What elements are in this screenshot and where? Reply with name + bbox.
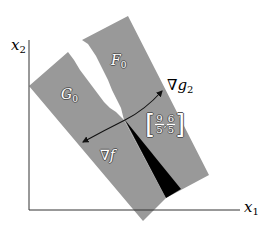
region-g0-label: G0	[61, 87, 78, 104]
grad-f-label: ∇f	[100, 148, 115, 162]
point-label: [95,65]	[145, 111, 185, 137]
diagram-canvas: x2 x1 G0 F0 ∇g2 ∇f [95,65]	[0, 0, 266, 231]
x-axis-label: x1	[244, 200, 259, 217]
y-axis-label: x2	[11, 38, 26, 55]
region-f0-label: F0	[111, 53, 126, 70]
grad-g2-label: ∇g2	[167, 78, 193, 95]
diagram-graphics	[0, 0, 266, 231]
